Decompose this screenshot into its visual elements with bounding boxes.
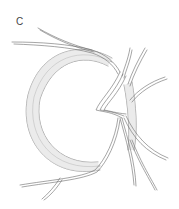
vessels-upper-left xyxy=(12,28,120,74)
vessel-diagram xyxy=(0,0,179,209)
notch xyxy=(96,72,126,118)
vessels-lower-right xyxy=(120,116,168,190)
